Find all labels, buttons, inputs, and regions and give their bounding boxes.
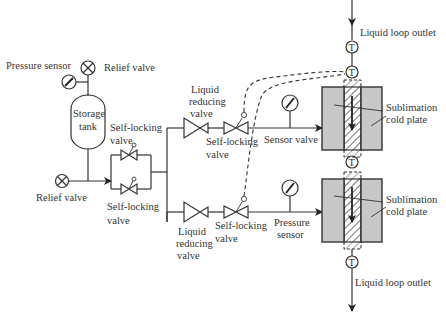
label-relief-valve-top: Relief valve xyxy=(104,62,155,73)
temp-sensor-1: T xyxy=(346,41,358,53)
pressure-sensor-branch-2-icon xyxy=(282,180,298,212)
label-pressure-sensor-bottom-2: sensor xyxy=(277,229,304,240)
label-sensor-valve: Sensor valve xyxy=(264,134,318,145)
label-storage-tank-2: tank xyxy=(79,121,98,132)
self-locking-valve-branch-1 xyxy=(224,112,248,134)
liquid-reducing-valve-branch-2 xyxy=(184,202,208,222)
label-self-locking-lower-2: valve xyxy=(107,215,130,226)
temp-sensor-3: T xyxy=(346,156,358,168)
label-sublimation-lower-1: Sublimation xyxy=(386,194,438,205)
label-sublimation-upper-1: Sublimation xyxy=(386,102,438,113)
self-locking-valve-branch-2 xyxy=(224,196,248,218)
label-liquid-reducing-top-1: Liquid xyxy=(191,84,220,95)
self-locking-valve-parallel-lower xyxy=(121,177,137,194)
svg-text:T: T xyxy=(349,67,356,78)
label-liquid-loop-outlet-top: Liquid loop outlet xyxy=(360,27,436,38)
label-liquid-reducing-top-3: valve xyxy=(190,108,213,119)
liquid-reducing-valve-branch-1 xyxy=(184,118,208,138)
label-storage-tank-1: Storage xyxy=(73,108,105,119)
label-pressure-sensor-bottom-1: Pressure xyxy=(274,217,310,228)
relief-valve-tank xyxy=(81,61,95,75)
sublimation-cold-plate-lower xyxy=(322,172,382,249)
label-liquid-reducing-bottom-1: Liquid xyxy=(178,226,207,237)
svg-text:T: T xyxy=(349,42,356,53)
label-liquid-reducing-top-2: reducing xyxy=(189,96,226,107)
label-self-locking-branch-bottom-1: Self-locking xyxy=(215,220,268,231)
label-liquid-reducing-bottom-3: valve xyxy=(177,250,200,261)
temp-sensor-4: T xyxy=(346,256,358,268)
label-sublimation-lower-2: cold plate xyxy=(386,206,427,217)
svg-text:T: T xyxy=(349,157,356,168)
svg-text:T: T xyxy=(349,257,356,268)
label-pressure-sensor-top: Pressure sensor xyxy=(6,60,72,71)
label-liquid-reducing-bottom-2: reducing xyxy=(176,238,213,249)
label-sublimation-upper-2: cold plate xyxy=(386,114,427,125)
piping-diagram: Pressure sensor Relief valve Storage tan… xyxy=(0,0,446,315)
pressure-sensor-tank-icon xyxy=(62,75,76,89)
label-self-locking-branch-top-2: valve xyxy=(206,149,229,160)
label-liquid-loop-outlet-bottom: Liquid loop outlet xyxy=(355,277,431,288)
label-self-locking-upper-2: valve xyxy=(110,135,133,146)
label-self-locking-branch-bottom-2: valve xyxy=(215,233,238,244)
sensor-valve-gauge-icon xyxy=(282,95,298,128)
temp-sensor-2: T xyxy=(346,66,358,78)
label-relief-valve-left: Relief valve xyxy=(36,192,87,203)
label-self-locking-lower-1: Self-locking xyxy=(107,201,160,212)
relief-valve-inlet xyxy=(56,175,69,188)
label-self-locking-upper-1: Self-locking xyxy=(110,122,163,133)
sublimation-cold-plate-upper xyxy=(322,80,382,157)
